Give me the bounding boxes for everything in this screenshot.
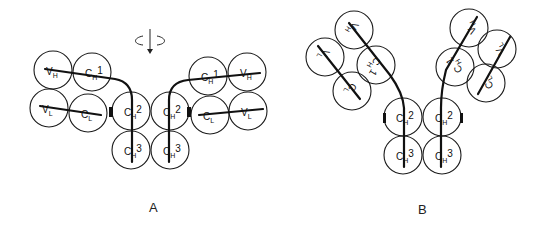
domain-label: CL: [81, 109, 92, 122]
heavy-chain-right: [441, 17, 477, 167]
domain-ch1: CH1: [73, 53, 111, 91]
domain-label: VL: [241, 107, 252, 120]
domain-ch1: CH1: [357, 46, 395, 84]
domain-label: CH2: [396, 110, 414, 126]
domain-label: CH3: [396, 148, 414, 164]
domain-label: CH2: [163, 104, 181, 120]
domain-label: CH1: [85, 65, 103, 81]
domain-circles-b: VHVLCH1CLCH2CH2CH3CH3VHVLCH1CL: [306, 9, 516, 174]
disulfide-bond-right: [187, 107, 191, 117]
domain-cl: CL: [333, 72, 371, 110]
rotate-arrow-icon: [136, 29, 165, 54]
domain-label: CH3: [163, 143, 181, 159]
panel-a: VHCH1VLCLCH2CH2CH3CH3CH1VHCLVL A: [30, 29, 267, 215]
panel-label-b: B: [418, 202, 427, 217]
domain-cl: CL: [467, 64, 505, 102]
panel-label-a: A: [149, 200, 158, 215]
domain-label: CH2: [435, 110, 453, 126]
disulfide-bond-left: [109, 107, 113, 117]
panel-b: VHVLCH1CLCH2CH2CH3CH3VHVLCH1CL B: [306, 9, 516, 217]
domain-label: CH3: [435, 148, 453, 164]
domain-label: CH2: [124, 104, 142, 120]
disulfide-bond-left: [383, 113, 386, 123]
disulfide-bond-right: [460, 113, 463, 123]
domain-label: CH3: [124, 143, 142, 159]
diagram-canvas: VHCH1VLCLCH2CH2CH3CH3CH1VHCLVL A VHVLCH1…: [0, 0, 558, 226]
domain-label: VH: [46, 66, 58, 79]
antibody-conformation-figure: VHCH1VLCLCH2CH2CH3CH3CH1VHCLVL A VHVLCH1…: [0, 0, 558, 226]
domain-circle: [450, 9, 488, 47]
domain-vh: VH: [450, 9, 488, 47]
